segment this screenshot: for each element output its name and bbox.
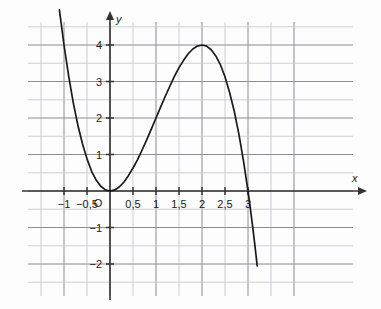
- y-tick-label: −1: [89, 222, 102, 234]
- x-axis-tick-labels: −1−0,50,511,522,53: [58, 198, 251, 210]
- x-tick-label: 1,5: [171, 198, 186, 210]
- y-tick-label: 2: [96, 112, 102, 124]
- x-tick-label: 3: [245, 198, 251, 210]
- cubic-function-plot: −1−0,50,511,522,53 −2−11234 O x y: [0, 0, 381, 309]
- x-tick-label: 2,5: [217, 198, 232, 210]
- y-tick-label: 3: [96, 76, 102, 88]
- x-axis-label: x: [351, 172, 358, 184]
- x-tick-label: −1: [58, 198, 71, 210]
- y-tick-label: 4: [96, 39, 102, 51]
- x-tick-label: 0,5: [125, 198, 140, 210]
- x-tick-label: 1: [153, 198, 159, 210]
- y-tick-label: 1: [96, 149, 102, 161]
- graph-figure: −1−0,50,511,522,53 −2−11234 O x y: [0, 0, 381, 309]
- x-tick-label: 2: [199, 198, 205, 210]
- y-tick-label: −2: [89, 258, 102, 270]
- origin-label: O: [94, 197, 103, 209]
